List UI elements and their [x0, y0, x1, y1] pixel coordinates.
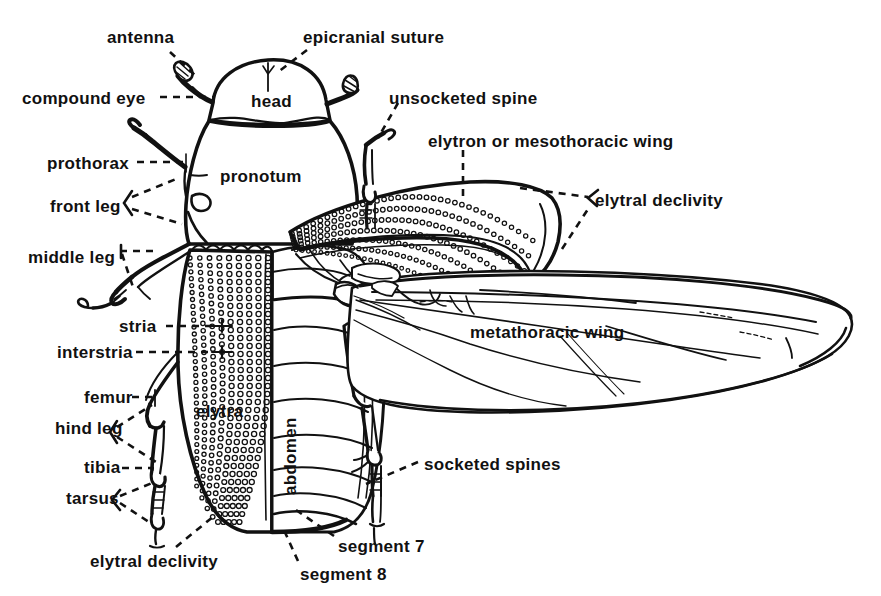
label-antenna: antenna: [107, 29, 174, 46]
label-socketed-spines: socketed spines: [424, 456, 561, 473]
label-compound-eye: compound eye: [22, 90, 146, 107]
label-elytral-declivity-left: elytral declivity: [90, 553, 218, 570]
label-segment-7: segment 7: [338, 538, 425, 555]
leader-tarsus: [120, 483, 152, 496]
leader-socketed-spines: [366, 462, 418, 484]
label-head: head: [251, 93, 292, 110]
leader-elytral-declivity-right-b: [562, 206, 590, 249]
label-elytra: elytra: [196, 403, 243, 420]
label-pronotum: pronotum: [220, 168, 302, 185]
leader-elytral-declivity-left: [176, 516, 214, 547]
label-tarsus: tarsus: [66, 490, 119, 507]
label-segment-8: segment 8: [300, 566, 387, 583]
label-epicranial-suture: epicranial suture: [303, 29, 444, 46]
leader-middle-leg-b: [122, 254, 134, 290]
label-metathoracic-wing: metathoracic wing: [470, 324, 624, 341]
bracket-front-leg: [124, 191, 132, 215]
leader-front-leg-b: [132, 209, 182, 224]
leader-unsocketed-spine: [378, 103, 398, 138]
leader-tarsus-b: [120, 503, 152, 524]
leader-antenna: [170, 52, 198, 78]
leader-segment-7: [296, 510, 334, 536]
leader-hind-leg-b: [117, 437, 156, 462]
label-front-leg: front leg: [50, 198, 121, 215]
label-tibia: tibia: [84, 459, 120, 476]
beetle-anatomy-figure: antenna epicranial suture compound eye h…: [0, 0, 881, 596]
leader-segment-8: [283, 528, 298, 561]
label-prothorax: prothorax: [47, 155, 129, 172]
label-hind-leg: hind leg: [55, 420, 123, 437]
label-elytron-or-mesothoracic-wing: elytron or mesothoracic wing: [428, 133, 674, 150]
label-interstria: interstria: [57, 344, 133, 361]
leader-elytral-declivity-right-a: [520, 188, 588, 197]
label-stria: stria: [119, 318, 156, 335]
leader-front-leg-a: [132, 179, 176, 197]
label-unsocketed-spine: unsocketed spine: [389, 90, 537, 107]
label-abdomen: abdomen: [282, 417, 299, 495]
label-middle-leg: middle leg: [28, 249, 115, 266]
label-elytral-declivity-right: elytral declivity: [595, 192, 723, 209]
leader-epicranial-suture: [278, 50, 307, 72]
label-femur: femur: [84, 389, 133, 406]
